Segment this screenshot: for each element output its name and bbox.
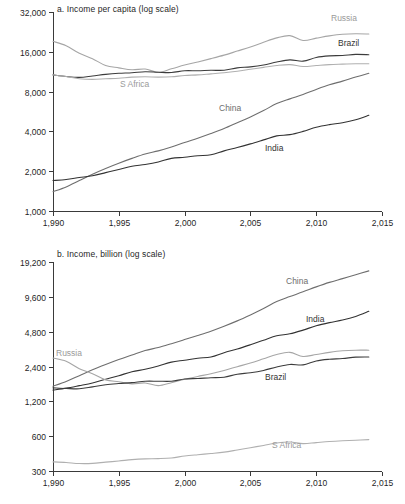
series-line-brazil — [53, 357, 369, 389]
series-label-s-africa: S Africa — [120, 79, 150, 89]
x-tick-label: 1,990 — [43, 478, 65, 488]
y-tick-label: 300 — [32, 467, 46, 477]
x-tick-label: 2,005 — [240, 218, 262, 228]
series-label-india: India — [306, 314, 325, 324]
series-label-china: China — [219, 103, 241, 113]
series-line-s-africa — [53, 64, 369, 80]
y-tick-label: 2,400 — [25, 363, 47, 373]
y-tick-label: 9,600 — [25, 293, 47, 303]
x-tick-label: 2,010 — [306, 478, 328, 488]
x-tick-label: 2,000 — [175, 218, 197, 228]
x-tick-label: 1,995 — [109, 478, 131, 488]
series-label-brazil: Brazil — [265, 372, 286, 382]
y-tick-label: 32,000 — [20, 8, 46, 18]
x-tick-label: 2,000 — [175, 478, 197, 488]
x-tick-label: 2,005 — [240, 478, 262, 488]
x-tick-label: 1,995 — [109, 218, 131, 228]
panel-income-billion: b. Income, billion (log scale) 3006001,2… — [0, 245, 405, 504]
y-tick-label: 16,000 — [20, 48, 46, 58]
y-tick-label: 4,800 — [25, 328, 47, 338]
series-label-india: India — [265, 143, 284, 153]
panel-b-chart: 3006001,2002,4004,8009,60019,2001,9901,9… — [0, 245, 405, 504]
x-tick-label: 2,010 — [306, 218, 328, 228]
series-label-s-africa: S Africa — [272, 440, 302, 450]
y-tick-label: 1,000 — [25, 207, 47, 217]
series-line-russia — [53, 34, 369, 73]
panel-income-per-capita: a. Income per capita (log scale) 1,0002,… — [0, 0, 405, 240]
panel-a-chart: 1,0002,0004,0008,00016,00032,0001,9901,9… — [0, 0, 405, 240]
series-label-china: China — [286, 276, 308, 286]
y-tick-label: 4,000 — [25, 127, 47, 137]
y-tick-label: 8,000 — [25, 88, 47, 98]
x-tick-label: 2,015 — [372, 478, 394, 488]
series-line-s-africa — [53, 440, 369, 464]
y-tick-label: 1,200 — [25, 397, 47, 407]
series-label-russia: Russia — [56, 348, 82, 358]
y-tick-label: 2,000 — [25, 167, 47, 177]
series-label-brazil: Brazil — [338, 38, 359, 48]
x-tick-label: 2,015 — [372, 218, 394, 228]
y-tick-label: 19,200 — [20, 258, 46, 268]
y-tick-label: 600 — [32, 432, 46, 442]
series-label-russia: Russia — [331, 13, 357, 23]
x-tick-label: 1,990 — [43, 218, 65, 228]
series-line-china — [53, 271, 369, 386]
